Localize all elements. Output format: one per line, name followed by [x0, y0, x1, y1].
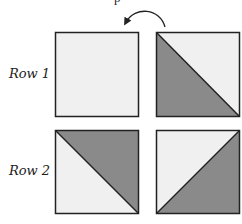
rotate-arrow-icon: [126, 11, 165, 27]
squares-canvas: [0, 0, 242, 224]
square-row1-col1: [56, 33, 139, 117]
square-row2-col2: [157, 131, 240, 214]
square-row2-col1: [56, 131, 139, 214]
square-row1-col2: [157, 33, 240, 117]
quilt-block-diagram: p Row 1 Row 2: [0, 0, 242, 224]
